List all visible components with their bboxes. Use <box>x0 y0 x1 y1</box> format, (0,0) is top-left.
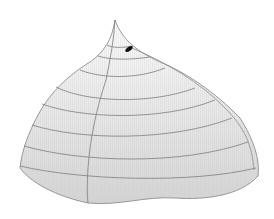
diagram-canvas <box>0 0 274 219</box>
surface-shading <box>20 20 258 204</box>
dome-surface-diagram <box>0 0 274 219</box>
